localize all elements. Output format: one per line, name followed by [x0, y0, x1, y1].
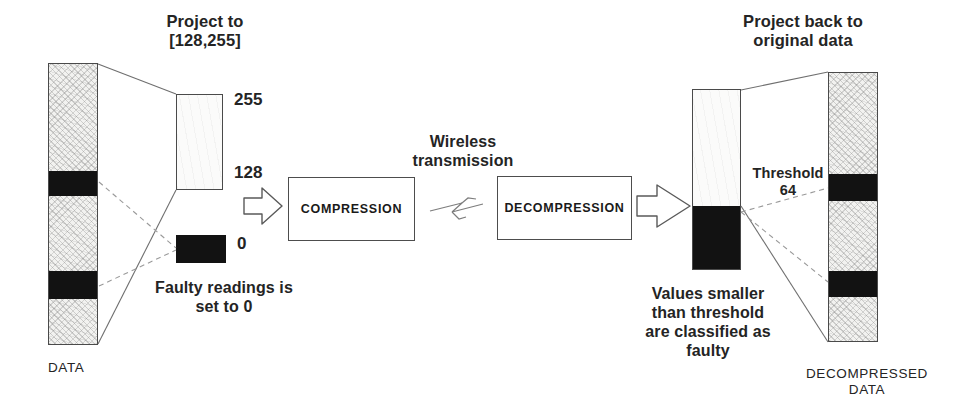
input-data-label: DATA [20, 360, 158, 376]
compression-box: COMPRESSION [288, 177, 415, 241]
faulty-map-line-1 [99, 182, 176, 248]
projection-line-bottom [98, 190, 176, 344]
project-back-title: Project back to original data [698, 12, 908, 51]
output-data-label: DECOMPRESSED DATA [796, 366, 938, 398]
output-faulty-band-2 [829, 271, 877, 297]
scale-mid-label: 128 [234, 163, 280, 183]
decompression-box: DECOMPRESSION [497, 176, 632, 240]
projected-range-box [176, 94, 223, 190]
values-smaller-note: Values smaller than threshold are classi… [618, 285, 798, 361]
connector-overlay [0, 0, 964, 413]
output-data-bar [828, 72, 878, 342]
threshold-bar [692, 89, 741, 270]
scale-max-label: 255 [234, 90, 280, 110]
faulty-zero-box [176, 235, 226, 263]
threshold-note: Threshold 64 [740, 165, 836, 199]
faulty-remap-line-2 [741, 212, 828, 282]
decompression-label: DECOMPRESSION [504, 201, 624, 215]
scale-min-label: 0 [237, 234, 267, 254]
lightning-bolt-icon [430, 198, 483, 219]
input-data-bar [48, 63, 98, 345]
diagram-canvas: DATA Project to [128,255] 255 128 0 Faul… [0, 0, 964, 413]
threshold-bar-below [693, 206, 740, 270]
arrow-to-threshold [637, 185, 690, 227]
project-to-title: Project to [128,255] [120, 12, 290, 51]
threshold-bar-above [693, 90, 740, 206]
faulty-readings-note: Faulty readings is set to 0 [140, 279, 308, 317]
projection-line-top [98, 64, 176, 94]
input-faulty-band-2 [49, 271, 97, 299]
arrow-to-compression [244, 188, 282, 224]
reprojection-line-top [741, 72, 828, 90]
output-faulty-band-1 [829, 174, 877, 201]
wireless-transmission-label: Wireless transmission [388, 133, 538, 171]
input-faulty-band-1 [49, 171, 97, 196]
compression-label: COMPRESSION [301, 202, 402, 216]
